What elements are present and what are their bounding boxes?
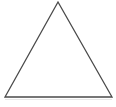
- triangle-shape: [5, 2, 112, 97]
- figure-canvas: [0, 0, 116, 107]
- triangle-figure: [0, 0, 116, 107]
